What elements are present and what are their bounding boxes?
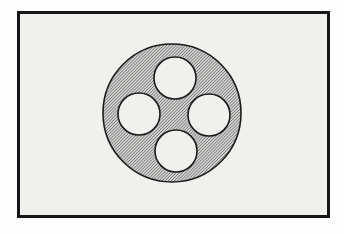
technical-drawing-canvas bbox=[0, 0, 344, 234]
figure-root bbox=[0, 0, 344, 234]
